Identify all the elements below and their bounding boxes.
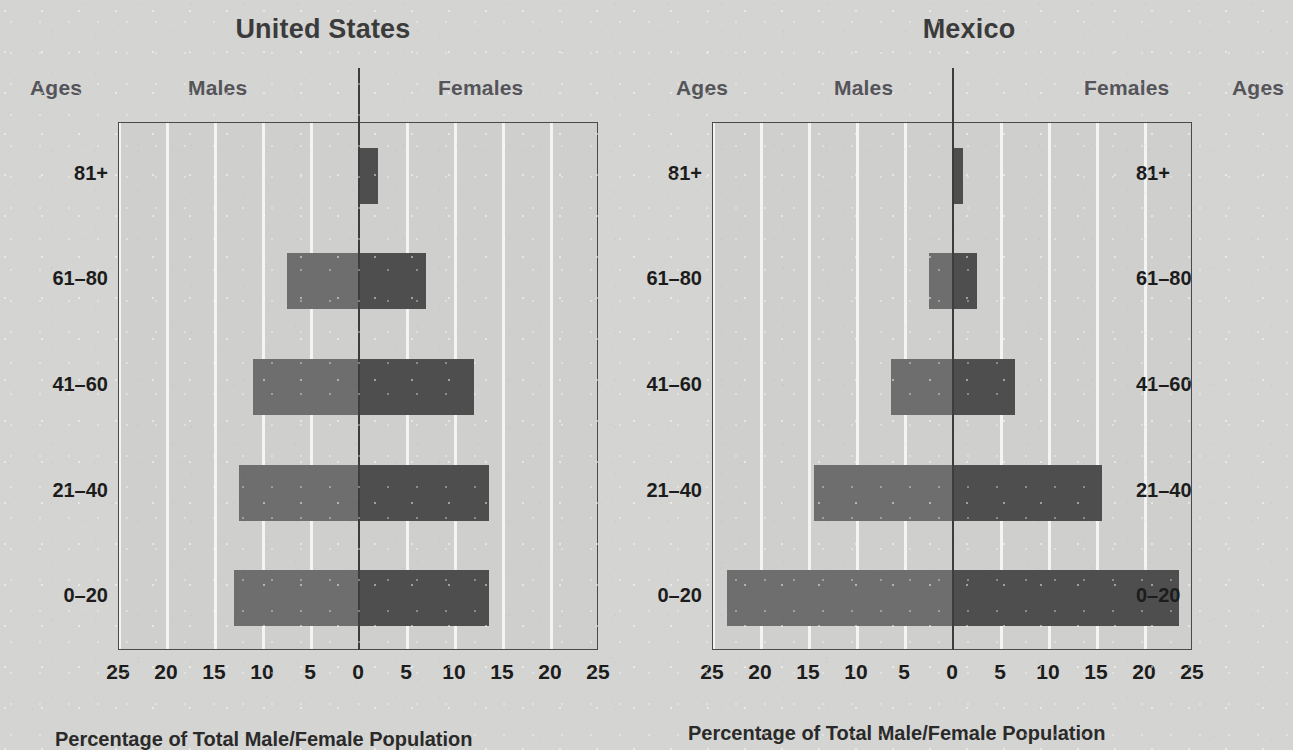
header-males-mexico: Males (834, 76, 893, 100)
zero-axis-line (952, 68, 954, 650)
x-tick-label: 15 (788, 660, 828, 684)
bar-male (234, 570, 359, 626)
panel-mexico: Mexico Ages Males Females 25201510505101… (646, 0, 1292, 750)
x-tick-label: 20 (1124, 660, 1164, 684)
age-label-left: 0–20 (614, 584, 702, 607)
age-label-right: 21–40 (1136, 479, 1192, 502)
age-label-left: 41–60 (614, 373, 702, 396)
x-tick-label: 25 (578, 660, 618, 684)
age-label-right: 41–60 (1136, 373, 1192, 396)
panel-united-states: United States Ages Males Females 2520151… (0, 0, 646, 750)
x-tick-label: 15 (194, 660, 234, 684)
x-tick-label: 25 (692, 660, 732, 684)
bar-female (953, 465, 1102, 521)
age-label-left: 0–20 (20, 584, 108, 607)
bar-male (727, 570, 953, 626)
population-pyramid-figure: United States Ages Males Females 2520151… (0, 0, 1293, 750)
bar-female (953, 359, 1015, 415)
x-tick-label: 0 (932, 660, 972, 684)
x-tick-label: 5 (386, 660, 426, 684)
zero-axis-line (358, 68, 360, 650)
x-tick-label: 10 (836, 660, 876, 684)
age-label-left: 41–60 (20, 373, 108, 396)
x-tick-label: 10 (434, 660, 474, 684)
bar-female (359, 148, 378, 204)
x-tick-label: 25 (1172, 660, 1212, 684)
x-tick-label: 20 (740, 660, 780, 684)
bar-male (929, 253, 953, 309)
header-ages-left-us: Ages (30, 76, 82, 100)
x-tick-label: 25 (98, 660, 138, 684)
age-label-right: 81+ (1136, 162, 1170, 185)
age-label-left: 21–40 (20, 479, 108, 502)
age-label-left: 61–80 (20, 267, 108, 290)
header-ages-left-mexico: Ages (676, 76, 728, 100)
bar-male (287, 253, 359, 309)
age-label-left: 81+ (20, 162, 108, 185)
bar-female (359, 465, 489, 521)
age-label-right: 61–80 (1136, 267, 1192, 290)
age-label-left: 61–80 (614, 267, 702, 290)
bar-male (891, 359, 953, 415)
x-tick-label: 5 (290, 660, 330, 684)
x-tick-label: 20 (530, 660, 570, 684)
age-label-left: 21–40 (614, 479, 702, 502)
x-tick-label: 15 (482, 660, 522, 684)
x-tick-label: 5 (884, 660, 924, 684)
x-tick-label: 20 (146, 660, 186, 684)
gridline (598, 123, 599, 649)
chart-title-mexico: Mexico (646, 14, 1292, 45)
bar-female (953, 253, 977, 309)
bar-male (253, 359, 359, 415)
header-females-mexico: Females (1084, 76, 1169, 100)
age-label-left: 81+ (614, 162, 702, 185)
bar-male (814, 465, 953, 521)
x-tick-label: 5 (980, 660, 1020, 684)
bar-female (953, 148, 963, 204)
chart-title-united-states: United States (0, 14, 646, 45)
bar-male (239, 465, 359, 521)
x-tick-label: 10 (242, 660, 282, 684)
x-tick-label: 10 (1028, 660, 1068, 684)
x-tick-label: 0 (338, 660, 378, 684)
header-males-us: Males (188, 76, 247, 100)
bar-female (359, 359, 474, 415)
bar-female (359, 253, 426, 309)
bar-female (359, 570, 489, 626)
header-females-us: Females (438, 76, 523, 100)
age-label-right: 0–20 (1136, 584, 1181, 607)
x-tick-label: 15 (1076, 660, 1116, 684)
